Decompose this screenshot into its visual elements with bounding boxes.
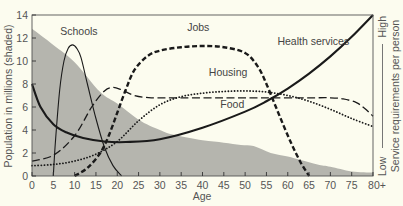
x-tick-label: 10 <box>69 179 81 191</box>
x-tick-label: 50 <box>239 179 251 191</box>
jobs-label: Jobs <box>187 21 209 33</box>
y-tick-label: 6 <box>22 101 28 113</box>
health-services-label: Health services <box>277 35 349 47</box>
y-tick-label: 14 <box>16 9 28 21</box>
y2-axis-title: Service requirements per person <box>389 20 401 172</box>
y2-high-label: High <box>376 16 388 38</box>
y-tick-label: 2 <box>22 147 28 159</box>
x-tick-label: 65 <box>303 179 315 191</box>
x-tick-label: 35 <box>175 179 187 191</box>
y-tick-label: 0 <box>22 170 28 182</box>
population-service-chart: 05101520253035404550556065707580+0246810… <box>0 0 403 206</box>
y-tick-label: 12 <box>16 32 28 44</box>
x-tick-label: 15 <box>90 179 102 191</box>
x-tick-label: 45 <box>218 179 230 191</box>
y-tick-label: 4 <box>22 124 28 136</box>
x-tick-label: 30 <box>154 179 166 191</box>
food-label: Food <box>220 98 244 110</box>
housing-label: Housing <box>209 66 248 78</box>
population-area <box>32 29 373 176</box>
x-tick-label: 25 <box>133 179 145 191</box>
y-tick-label: 8 <box>22 78 28 90</box>
y-tick-label: 10 <box>16 55 28 67</box>
x-tick-label: 60 <box>282 179 294 191</box>
schools-label: Schools <box>60 25 97 37</box>
x-tick-label: 75 <box>346 179 358 191</box>
x-tick-label: 20 <box>111 179 123 191</box>
x-axis-title: Age <box>193 190 212 202</box>
x-tick-label: 5 <box>50 179 56 191</box>
x-tick-label: 80+ <box>368 179 386 191</box>
population-shaded-area <box>32 29 373 176</box>
x-tick-label: 0 <box>29 179 35 191</box>
y-axis-title: Population in millions (shaded) <box>2 25 14 168</box>
y2-low-label: Low <box>376 156 388 176</box>
x-tick-label: 70 <box>325 179 337 191</box>
x-tick-label: 55 <box>261 179 273 191</box>
